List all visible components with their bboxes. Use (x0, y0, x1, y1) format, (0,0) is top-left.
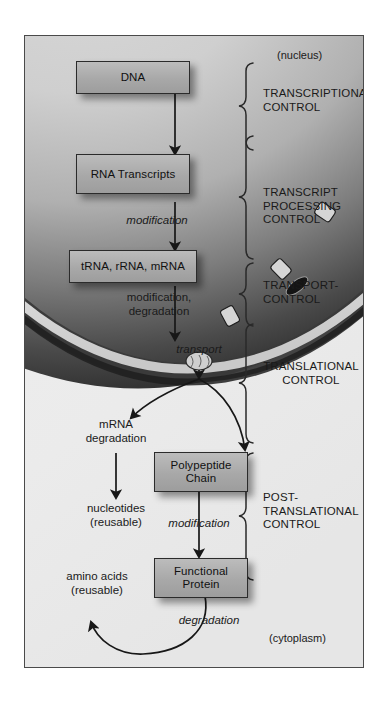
node-functional-protein[interactable]: Functional Protein (154, 558, 248, 598)
label-amino-acids: amino acids (reusable) (45, 570, 149, 597)
node-rnas[interactable]: tRNA, rRNA, mRNA (69, 250, 197, 283)
label-modification-rna: modification (113, 214, 201, 228)
control-transcript-processing: TRANSCRIPT PROCESSING CONTROL (263, 186, 363, 227)
node-dna[interactable]: DNA (76, 61, 190, 94)
label-modification-protein: modification (155, 517, 243, 531)
brace-translational (239, 324, 253, 443)
control-transport: TRANSPORT- CONTROL (263, 279, 363, 306)
node-rna-transcripts[interactable]: RNA Transcripts (76, 154, 190, 194)
nucleus-label: (nucleus) (277, 49, 322, 61)
brace-transcript-processing (239, 136, 253, 259)
brace-transport (239, 263, 253, 326)
gene-expression-control-figure: (nucleus) (cytoplasm) DNA RNA Transcript… (0, 0, 385, 705)
control-transcriptional: TRANSCRIPTIONAL CONTROL (263, 87, 363, 114)
diagram-frame: (nucleus) (cytoplasm) DNA RNA Transcript… (24, 35, 364, 668)
node-polypeptide-chain[interactable]: Polypeptide Chain (154, 452, 248, 492)
label-nucleotides: nucleotides (reusable) (64, 502, 168, 529)
cytoplasm-label: (cytoplasm) (269, 632, 326, 644)
label-degradation-protein: degradation (165, 614, 253, 628)
label-transport: transport (155, 343, 243, 357)
control-post-translational: POST- TRANSLATIONAL CONTROL (263, 491, 363, 532)
label-modification-degradation: modification, degradation (111, 291, 207, 318)
control-translational: TRANSLATIONAL CONTROL (259, 360, 363, 387)
label-mrna-degradation: mRNA degradation (68, 418, 164, 445)
